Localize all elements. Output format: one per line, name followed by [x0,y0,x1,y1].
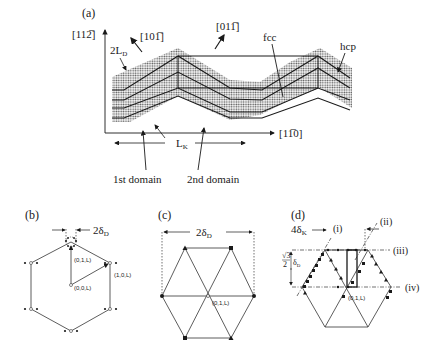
label-second-domain: 2nd domain [187,173,240,185]
axis-x-label: [11̅0] [279,127,302,139]
label-sqrt3-den: 2 [283,260,287,269]
point-0-1-L-c: (0,1,L) [212,300,229,306]
width-label-c: 2δD [196,226,212,240]
panel-d-label: (d) [291,208,305,222]
label-2LD-pointer [120,58,126,70]
panel-c: (c) 2δD (0,1,L) [158,208,256,340]
point-0-0-L: (0,0,L) [74,285,91,291]
label-4dK: 4δK [291,223,307,237]
dir-10-1-label: [101̅] [140,30,164,42]
panel-a: (a) [112̅] [11̅0] [101̅] [011̅] 2LD [72,6,356,185]
stacking-band [112,48,352,122]
panel-a-label: (a) [82,6,95,20]
width-label-b: 2δD [93,224,109,238]
dir-01-1-label: [011̅] [216,20,239,32]
vector-1-0 [71,264,108,285]
panel-d: (d) [282,208,419,327]
point-0-1-L-d: (0,1,L) [348,295,365,301]
label-sqrt3-delta: δD [293,258,301,268]
axis-y-label: [112̅] [72,28,95,40]
label-hcp: hcp [340,40,356,52]
label-first-domain: 1st domain [113,173,162,185]
center-spot-c [207,295,210,298]
label-LK: LK [176,137,188,151]
second-domain-pointer [198,128,204,170]
point-1-0-L: (1,0,L) [114,272,131,278]
label-ii: (ii) [380,216,392,228]
LK-pointer [155,125,165,138]
point-0-1-L: (0,1,L) [74,257,91,263]
label-sqrt3: √3 [282,251,290,260]
hexagon-c [162,248,254,338]
label-fcc: fcc [263,31,277,43]
label-iii: (iii) [393,245,408,257]
label-2LD: 2LD [110,44,127,58]
figure-canvas: (a) [112̅] [11̅0] [101̅] [011̅] 2LD [0,0,441,347]
label-iv: (iv) [405,282,419,294]
first-domain-pointer [143,131,146,170]
label-i: (i) [333,223,342,235]
dir-01-1-arrow [215,35,224,49]
panel-b-label: (b) [25,208,39,222]
triangle-markers [303,254,388,295]
satellite-spots [24,262,117,332]
panel-c-label: (c) [158,208,171,222]
panel-b: (b) 2δD ( [24,208,131,333]
bragg-spots [30,262,112,333]
line-ii [355,223,377,260]
